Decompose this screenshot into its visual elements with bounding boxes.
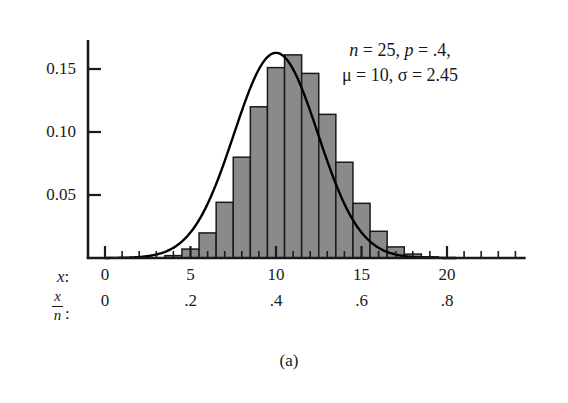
histogram-bar — [319, 114, 336, 258]
parameter-annotation: n = 25, p = .4, μ = 10, σ = 2.45 — [300, 38, 500, 88]
annotation-line-1: n = 25, p = .4, — [300, 38, 500, 63]
proportion-axis-tick-label: .2 — [171, 292, 211, 309]
x-axis-tick-label: 20 — [427, 266, 467, 283]
annotation-sigma-value: = 2.45 — [407, 65, 458, 85]
annotation-p-symbol: p — [405, 40, 414, 60]
x-axis-tick-label: 5 — [171, 266, 211, 283]
x-axis-row-symbol: x — [57, 267, 65, 286]
histogram-bar — [216, 202, 233, 258]
y-axis-tick-label: 0.10 — [12, 123, 76, 140]
annotation-n-symbol: n — [349, 40, 358, 60]
histogram-bar — [302, 73, 319, 258]
y-axis-tick-label: 0.05 — [12, 186, 76, 203]
y-axis-tick-label: 0.15 — [12, 60, 76, 77]
histogram-bar — [250, 107, 267, 258]
histogram-bar — [267, 68, 284, 258]
proportion-axis-row-label: x n : — [52, 290, 70, 325]
annotation-sigma-symbol: σ — [398, 65, 408, 85]
annotation-line-2: μ = 10, σ = 2.45 — [300, 63, 500, 88]
binomial-histogram-figure: 0.15 0.10 0.05 x: x n : 0 5 10 15 20 0 .… — [0, 0, 568, 403]
proportion-axis-tick-label: .6 — [342, 292, 382, 309]
annotation-mu-symbol: μ — [342, 65, 352, 85]
annotation-mu-value: = 10, — [352, 65, 398, 85]
fraction-denominator: n — [53, 308, 63, 324]
histogram-bar — [233, 157, 250, 258]
x-axis-tick-label: 15 — [342, 266, 382, 283]
proportion-axis-tick-label: .8 — [427, 292, 467, 309]
annotation-n-value: = 25, — [358, 40, 404, 60]
annotation-p-value: = .4, — [414, 40, 451, 60]
histogram-bar — [336, 162, 353, 258]
x-axis-row-label: x: — [57, 268, 69, 285]
fraction-x-over-n: x n — [52, 289, 63, 324]
proportion-axis-tick-label: .4 — [256, 292, 296, 309]
figure-caption: (a) — [239, 352, 339, 369]
fraction-colon: : — [65, 305, 70, 322]
proportion-axis-tick-label: 0 — [85, 292, 125, 309]
x-axis-tick-label: 10 — [256, 266, 296, 283]
x-axis-row-colon: : — [65, 267, 70, 286]
x-axis-tick-label: 0 — [85, 266, 125, 283]
fraction-numerator: x — [53, 289, 62, 305]
